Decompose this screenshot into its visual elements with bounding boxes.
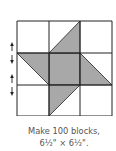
top-point bbox=[49, 21, 80, 53]
right-point bbox=[80, 53, 112, 85]
star-shaded-pieces bbox=[17, 21, 112, 116]
bottom-point bbox=[49, 85, 80, 116]
seam-arrow-icon bbox=[10, 74, 14, 96]
caption-instruction: Make 100 blocks, bbox=[0, 125, 116, 137]
center-square bbox=[49, 53, 80, 85]
seam-arrow-icon bbox=[10, 42, 14, 64]
left-point bbox=[17, 53, 49, 85]
pressing-direction-arrows-icon bbox=[10, 42, 14, 96]
caption-dimensions: 6½" × 6½". bbox=[0, 137, 116, 149]
quilt-block-diagram bbox=[0, 0, 116, 116]
